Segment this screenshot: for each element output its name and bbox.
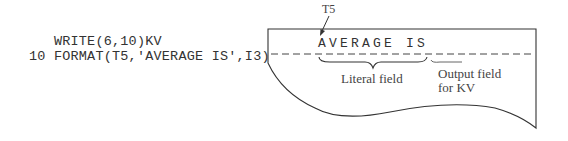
literal-output-text: AVERAGE IS (318, 36, 428, 51)
tab-position-label: T5 (322, 2, 335, 17)
output-field-label-line2: for KV (438, 80, 475, 96)
literal-field-label: Literal field (341, 71, 403, 87)
